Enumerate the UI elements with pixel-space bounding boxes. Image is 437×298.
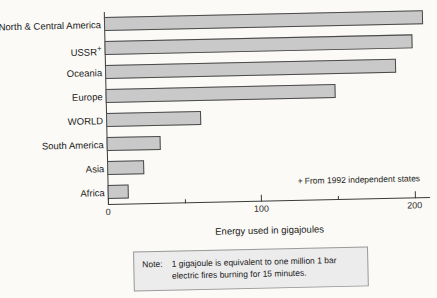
bar: Oceania (105, 59, 397, 79)
x-axis-title: Energy used in gigajoules (109, 221, 431, 239)
note-text: 1 gigajoule is equivalent to one million… (171, 254, 359, 283)
bar: South America (107, 136, 161, 151)
category-label: USSR+ (70, 42, 101, 60)
x-axis-line (108, 197, 430, 205)
x-tick-label: 0 (106, 207, 111, 217)
bar: Asia (107, 160, 144, 175)
ussr-footnote-marker: + (97, 44, 102, 53)
bar-series: North & Central AmericaUSSR+OceaniaEurop… (104, 5, 426, 12)
category-label: Oceania (67, 66, 103, 81)
x-tick (261, 195, 262, 202)
bar: Africa (108, 185, 130, 199)
bar: Europe (105, 84, 335, 103)
category-label: Asia (86, 162, 105, 176)
x-tick-minor (338, 196, 339, 200)
category-label: WORLD (68, 114, 104, 129)
category-label: North & Central America (0, 18, 101, 34)
category-label: Europe (72, 90, 103, 105)
x-tick-label: 200 (407, 200, 422, 210)
bar: USSR+ (104, 34, 412, 55)
x-tick-minor (185, 199, 186, 203)
x-tick-label: 100 (254, 204, 269, 214)
footnote-marker: + (297, 176, 302, 186)
bar: North & Central America (104, 10, 423, 31)
category-label: Africa (80, 186, 105, 201)
x-tick (414, 191, 415, 198)
note-box: Note: 1 gigajoule is equivalent to one m… (133, 246, 369, 291)
chart-figure: North & Central AmericaUSSR+OceaniaEurop… (0, 0, 437, 298)
category-label: South America (42, 138, 104, 153)
note-label: Note: (142, 258, 163, 283)
x-tick (108, 198, 109, 205)
bar: WORLD (106, 111, 201, 127)
